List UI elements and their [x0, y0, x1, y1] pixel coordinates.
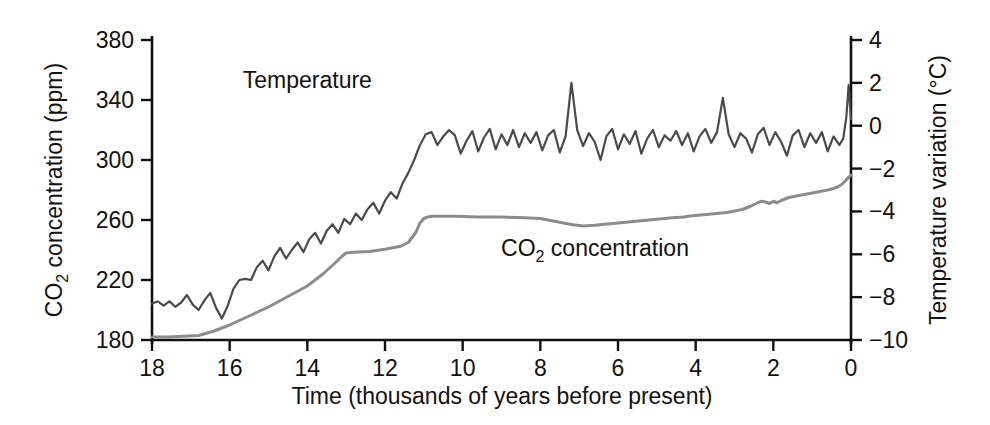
chart-svg: 180220260300340380 420−2−4−6−8−10 181614…	[0, 0, 990, 425]
x-tick-label: 6	[612, 355, 625, 381]
y2-tick-label: −2	[869, 156, 895, 182]
co2-annotation-rest: concentration	[544, 235, 688, 261]
y2-tick-label: 0	[869, 113, 882, 139]
plot-area: 180220260300340380 420−2−4−6−8−10 181614…	[96, 27, 908, 381]
y-axis-title-rest: concentration (ppm)	[41, 63, 67, 274]
y-tick-label: 340	[96, 87, 134, 113]
x-tick-label: 18	[139, 355, 165, 381]
y2-tick-label: 4	[869, 27, 882, 53]
y2-tick-label: −10	[869, 327, 908, 353]
y2-tick-label: 2	[869, 70, 882, 96]
x-tick-label: 0	[845, 355, 858, 381]
y-tick-label: 380	[96, 27, 134, 53]
x-axis-title: Time (thousands of years before present)	[291, 383, 712, 409]
y-axis-title-sub: 2	[54, 274, 71, 283]
x-tick-label: 10	[450, 355, 476, 381]
y-axis-title-main: CO	[41, 283, 67, 318]
series-annotation-temperature: Temperature	[243, 67, 372, 93]
x-tick-label: 14	[295, 355, 321, 381]
right-axis-ticks: 420−2−4−6−8−10	[851, 27, 908, 353]
co2-annotation-main: CO	[501, 235, 536, 261]
y-axis-title: CO2 concentration (ppm)	[41, 63, 71, 317]
y-tick-label: 180	[96, 327, 134, 353]
y-tick-label: 260	[96, 207, 134, 233]
y-tick-label: 300	[96, 147, 134, 173]
y2-tick-label: −8	[869, 284, 895, 310]
chart-figure: 180220260300340380 420−2−4−6−8−10 181614…	[0, 0, 990, 425]
co2-annotation-sub: 2	[536, 248, 545, 265]
x-tick-label: 4	[689, 355, 702, 381]
y2-tick-label: −6	[869, 241, 895, 267]
left-axis-ticks: 180220260300340380	[96, 27, 152, 353]
x-tick-label: 12	[372, 355, 398, 381]
series-annotation-co2: CO2 concentration	[501, 235, 689, 265]
x-tick-label: 2	[767, 355, 780, 381]
x-tick-label: 8	[534, 355, 547, 381]
bottom-axis-ticks: 181614121086420	[139, 340, 857, 381]
y-tick-label: 220	[96, 267, 134, 293]
y2-tick-label: −4	[869, 198, 895, 224]
x-tick-label: 16	[217, 355, 243, 381]
series-line-temperature	[152, 83, 851, 319]
y2-axis-title: Temperature variation (°C)	[925, 55, 951, 325]
